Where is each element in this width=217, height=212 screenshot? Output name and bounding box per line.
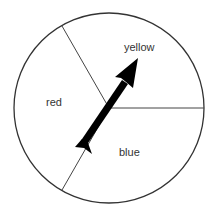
section-label-blue: blue [119,147,140,158]
section-label-yellow: yellow [124,42,155,53]
section-label-red: red [46,97,62,108]
spinner-graphic [0,0,217,212]
